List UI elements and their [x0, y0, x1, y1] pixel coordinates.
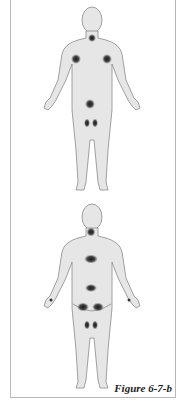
spot-right-buttock: [92, 303, 104, 312]
spot-pubic: [85, 99, 95, 109]
spot-neck: [88, 34, 96, 42]
spot-right-palm: [128, 299, 131, 302]
spot-right-knee: [92, 119, 98, 128]
spot-left-palm: [50, 299, 53, 302]
spot-right-shoulder: [102, 54, 112, 64]
front-body-diagram: [0, 0, 184, 200]
spot-neck: [87, 228, 96, 237]
figure-caption: Figure 6-7-b: [114, 382, 172, 394]
spot-right-knee: [92, 321, 98, 330]
spot-mid-back: [84, 255, 98, 264]
spot-left-buttock: [77, 303, 89, 312]
spot-left-knee: [84, 119, 90, 128]
spot-left-shoulder: [71, 54, 81, 64]
spot-lower-back: [85, 284, 97, 292]
back-body-diagram: [0, 200, 184, 400]
spot-left-knee: [84, 321, 90, 330]
